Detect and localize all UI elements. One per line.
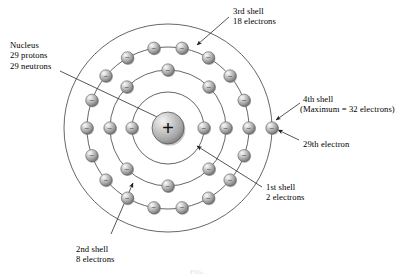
svg-text:−: − bbox=[85, 123, 90, 133]
electron-shell2-6: − bbox=[203, 163, 216, 176]
electron-shell3-11: − bbox=[238, 150, 251, 163]
electron-shell3-16: − bbox=[121, 192, 134, 205]
svg-text:−: − bbox=[270, 123, 275, 133]
svg-text:−: − bbox=[242, 150, 247, 160]
svg-text:−: − bbox=[247, 123, 252, 133]
svg-text:−: − bbox=[202, 123, 207, 133]
electron-shell3-10: − bbox=[243, 122, 256, 135]
svg-text:−: − bbox=[166, 65, 171, 75]
leader-shell4 bbox=[276, 103, 300, 120]
electron-shell3-9: − bbox=[238, 94, 251, 107]
label-nucleus-line1: Nucleus bbox=[10, 40, 51, 50]
electron-shell2-7: − bbox=[162, 180, 175, 193]
label-shell3: 3rd shell 18 electrons bbox=[233, 6, 276, 27]
electron-shell3-17: − bbox=[100, 174, 113, 187]
label-29th-electron: 29th electron bbox=[303, 139, 349, 149]
label-shell1-line1: 1st shell bbox=[266, 182, 305, 192]
label-shell2: 2nd shell 8 electrons bbox=[76, 244, 115, 265]
electron-shell2-3: − bbox=[162, 64, 175, 77]
label-29th-electron-line1: 29th electron bbox=[303, 139, 349, 149]
electron-shell2-5: − bbox=[220, 122, 233, 135]
label-nucleus-line3: 29 neutrons bbox=[10, 61, 51, 71]
svg-text:−: − bbox=[207, 82, 212, 92]
svg-text:−: − bbox=[125, 82, 130, 92]
nucleus-sphere: + bbox=[152, 112, 185, 146]
leader-shell2 bbox=[111, 183, 133, 234]
svg-text:−: − bbox=[180, 202, 185, 212]
electron-shell2-8: − bbox=[121, 163, 134, 176]
svg-text:−: − bbox=[242, 95, 247, 105]
electron-shell3-13: − bbox=[202, 192, 215, 205]
leader-29th-electron bbox=[278, 130, 299, 140]
svg-text:−: − bbox=[180, 43, 185, 53]
svg-text:−: − bbox=[224, 123, 229, 133]
label-shell4-line2: (Maximum = 32 electrons) bbox=[300, 104, 395, 114]
electron-shell3-1: − bbox=[81, 122, 94, 135]
svg-text:−: − bbox=[130, 123, 135, 133]
electron-shell3-5: − bbox=[148, 42, 161, 55]
electron-shell4-1: − bbox=[266, 122, 279, 135]
label-shell3-line2: 18 electrons bbox=[233, 16, 276, 26]
electron-shell3-8: − bbox=[224, 70, 237, 83]
label-shell4: 4th shell (Maximum = 32 electrons) bbox=[303, 94, 395, 115]
label-nucleus: Nucleus 29 protons 29 neutrons bbox=[10, 40, 51, 71]
svg-text:−: − bbox=[104, 175, 109, 185]
figure-caption: FIG. bbox=[190, 268, 205, 276]
label-shell4-line1: 4th shell bbox=[303, 94, 395, 104]
leader-nucleus bbox=[60, 71, 172, 124]
electron-shell2-1: − bbox=[104, 122, 117, 135]
electron-shell3-18: − bbox=[86, 150, 99, 163]
svg-text:+: + bbox=[162, 116, 174, 140]
svg-text:−: − bbox=[89, 150, 94, 160]
electron-shell3-15: − bbox=[148, 202, 161, 215]
svg-text:−: − bbox=[228, 175, 233, 185]
electron-shell3-7: − bbox=[202, 52, 215, 65]
label-shell1: 1st shell 2 electrons bbox=[266, 182, 305, 203]
label-shell2-line2: 8 electrons bbox=[76, 254, 115, 264]
svg-text:−: − bbox=[166, 181, 171, 191]
svg-text:−: − bbox=[89, 95, 94, 105]
electron-shell3-14: − bbox=[176, 202, 189, 215]
electron-shell1-2: − bbox=[198, 122, 211, 135]
label-nucleus-line2: 29 protons bbox=[10, 50, 51, 60]
svg-text:−: − bbox=[108, 123, 113, 133]
svg-text:−: − bbox=[104, 71, 109, 81]
svg-text:−: − bbox=[206, 52, 211, 62]
label-shell2-line1: 2nd shell bbox=[76, 244, 115, 254]
svg-text:−: − bbox=[152, 202, 157, 212]
label-shell3-line1: 3rd shell bbox=[233, 6, 276, 16]
electron-shell3-2: − bbox=[86, 94, 99, 107]
electron-shell1-1: − bbox=[126, 122, 139, 135]
figure-canvas: −−−−−−−−−−−−−−−−−−−−−−−−−−−−− + Nucleus … bbox=[0, 0, 418, 279]
svg-text:−: − bbox=[228, 71, 233, 81]
svg-text:−: − bbox=[207, 164, 212, 174]
electron-shell3-4: − bbox=[121, 52, 134, 65]
svg-text:−: − bbox=[125, 193, 130, 203]
electron-shell3-6: − bbox=[176, 42, 189, 55]
svg-text:−: − bbox=[125, 52, 130, 62]
electron-shell2-4: − bbox=[203, 81, 216, 94]
svg-text:−: − bbox=[125, 164, 130, 174]
svg-text:−: − bbox=[206, 193, 211, 203]
atom-diagram: −−−−−−−−−−−−−−−−−−−−−−−−−−−−− + bbox=[0, 0, 418, 279]
label-shell1-line2: 2 electrons bbox=[266, 192, 305, 202]
svg-text:−: − bbox=[152, 43, 157, 53]
